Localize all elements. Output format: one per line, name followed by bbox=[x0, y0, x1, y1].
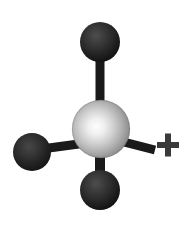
central-atom-group bbox=[72, 100, 130, 158]
molecule-diagram bbox=[0, 0, 188, 226]
charge-vertical-bar bbox=[165, 134, 171, 157]
atom-top-sphere bbox=[80, 22, 120, 62]
molecular-model-figure: Ball-and-stick molecular model: a large … bbox=[0, 0, 188, 226]
charge-symbol bbox=[157, 134, 179, 157]
atom-left-sphere bbox=[13, 133, 51, 171]
atom-bottom-sphere bbox=[80, 170, 120, 210]
